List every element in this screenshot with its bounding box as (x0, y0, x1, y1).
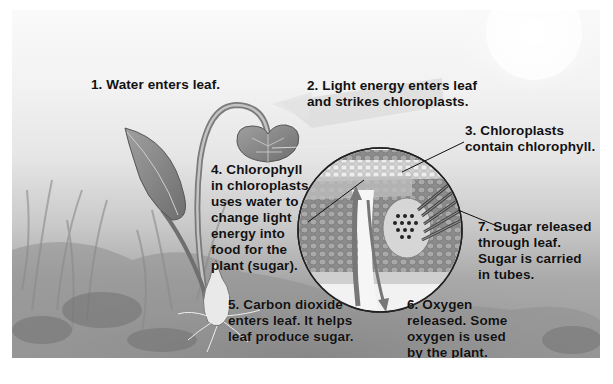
label-line: change light (211, 210, 309, 226)
label-line: 6. Oxygen (407, 297, 507, 313)
label-step-6: 6. Oxygen released. Some oxygen is used … (407, 297, 507, 358)
label-line: through leaf. (478, 235, 592, 251)
label-step-2: 2. Light energy enters leaf and strikes … (307, 78, 477, 110)
label-step-3: 3. Chloroplasts contain chlorophyll. (465, 123, 595, 155)
label-line: 5. Carbon dioxide (228, 297, 354, 313)
label-line: oxygen is used (407, 329, 507, 345)
label-line: plant (sugar). (211, 258, 309, 274)
sun-glow-icon (486, 10, 582, 80)
label-line: by the plant. (407, 345, 507, 358)
label-line: 2. Light energy enters leaf (307, 78, 477, 94)
label-line: 3. Chloroplasts (465, 123, 595, 139)
label-line: in chloroplasts (211, 178, 309, 194)
label-line: food for the (211, 242, 309, 258)
label-line: enters leaf. It helps (228, 313, 354, 329)
label-line: 7. Sugar released (478, 219, 592, 235)
label-line: energy into (211, 226, 309, 242)
label-step-7: 7. Sugar released through leaf. Sugar is… (478, 219, 592, 283)
label-line: 1. Water enters leaf. (91, 77, 220, 93)
label-line: in tubes. (478, 267, 592, 283)
label-line: 4. Chlorophyll (211, 162, 309, 178)
label-line: leaf produce sugar. (228, 329, 354, 345)
label-step-5: 5. Carbon dioxide enters leaf. It helps … (228, 297, 354, 345)
label-line: contain chlorophyll. (465, 139, 595, 155)
label-line: released. Some (407, 313, 507, 329)
photosynthesis-diagram: 1. Water enters leaf. 2. Light energy en… (12, 10, 600, 358)
large-leaf-icon (125, 128, 186, 220)
label-line: uses water to (211, 194, 309, 210)
label-step-4: 4. Chlorophyll in chloroplasts uses wate… (211, 162, 309, 274)
label-line: Sugar is carried (478, 251, 592, 267)
label-step-1: 1. Water enters leaf. (91, 77, 220, 93)
label-line: and strikes chloroplasts. (307, 94, 477, 110)
